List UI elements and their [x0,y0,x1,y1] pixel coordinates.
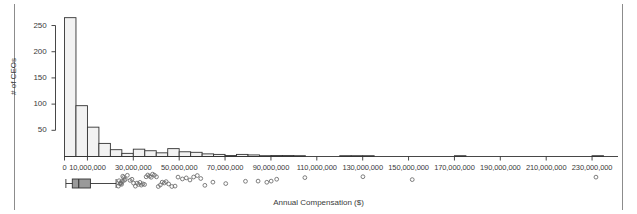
boxplot-outlier-point [361,175,365,179]
x-axis-tick-label: 10,000,000 [69,163,106,172]
x-axis-tick-label: 30,000,000 [115,163,152,172]
boxplot-outlier-point [199,177,203,181]
x-axis-tick-label: 110,000,000 [297,163,337,172]
histogram-bars [65,18,604,157]
boxplot-outlier-point [195,174,199,178]
x-axis-tick-label: 90,000,000 [253,163,290,172]
boxplot-outlier-point [188,178,192,182]
x-axis-tick-label: 130,000,000 [342,163,383,172]
boxplot-outlier-point [269,179,273,183]
histogram-bar [76,106,87,157]
boxplot-outlier-point [244,179,248,183]
histogram-bar [65,18,76,157]
boxplot-outlier-point [184,176,188,180]
histogram-bar [133,149,144,156]
boxplot-outlier-point [176,175,180,179]
histogram-bar [110,150,121,157]
x-axis-tick-label: 50,000,000 [161,163,198,172]
y-axis-tick-label: 150 [23,73,47,82]
histogram-bar [156,153,167,157]
boxplot-outlier-point [275,177,279,181]
boxplot-outlier-point [265,180,269,184]
x-axis-tick-label: 70,000,000 [207,163,244,172]
axis-lines [52,26,619,161]
x-axis-tick-label: 150,000,000 [388,163,429,172]
plot-area [0,0,637,214]
y-axis-tick-label: 200 [23,47,47,56]
histogram-bar [168,149,179,157]
boxplot-outlier-point [594,175,598,179]
boxplot-outlier-point [203,183,207,187]
x-axis-tick-label: 190,000,000 [480,163,521,172]
y-axis-tick-label: 50 [23,125,47,134]
boxplot-outlier-point [256,179,260,183]
histogram-bar [87,127,98,156]
y-axis-tick-label: 100 [23,99,47,108]
y-axis-tick-label: 250 [23,21,47,30]
histogram-bar [99,143,110,156]
histogram-bar [179,152,190,157]
boxplot-outlier-point [211,180,215,184]
histogram-bar [191,152,202,156]
x-axis-title: Annual Compensation ($) [0,198,637,207]
boxplot-box [72,179,90,188]
x-axis-tick-label: 210,000,000 [526,163,567,172]
x-axis-tick-label: 170,000,000 [434,163,475,172]
boxplot-outlier-point [410,178,414,182]
boxplot-outlier-point [181,177,185,181]
boxplot-outlier-point [224,182,228,186]
chart-svg [0,0,637,214]
boxplot-outliers [117,172,598,188]
histogram-figure: 50100150200250 010,000,00030,000,00050,0… [0,0,637,214]
boxplot-outlier-point [303,176,307,180]
boxplot [66,179,116,188]
x-axis-tick-label: 230,000,000 [572,163,613,172]
histogram-bar [145,151,156,157]
histogram-bar [122,153,133,156]
y-axis-title: # of CEOs [9,47,18,107]
boxplot-outlier-point [125,173,129,177]
x-axis-tick-label: 0 [62,163,66,172]
